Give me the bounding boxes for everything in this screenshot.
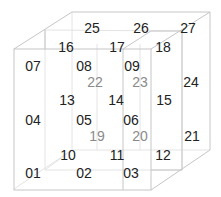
cell-label-11: 11: [110, 148, 125, 162]
cell-label-04: 04: [25, 113, 41, 127]
cell-label-16: 16: [58, 40, 74, 54]
cell-label-23: 23: [132, 75, 148, 89]
cell-label-27: 27: [180, 21, 196, 35]
cell-label-21: 21: [184, 129, 200, 143]
cell-label-13: 13: [59, 93, 75, 107]
cell-label-10: 10: [60, 148, 76, 162]
cell-label-14: 14: [108, 93, 124, 107]
cube-diagram: 2526271617180708092223241314150405061920…: [0, 0, 221, 197]
cell-label-24: 24: [183, 75, 199, 89]
cell-label-25: 25: [84, 21, 100, 35]
cell-label-02: 02: [76, 166, 92, 180]
cell-label-09: 09: [124, 59, 140, 73]
cell-label-20: 20: [132, 129, 148, 143]
cell-label-03: 03: [123, 166, 139, 180]
cell-label-19: 19: [89, 129, 105, 143]
cell-label-12: 12: [155, 148, 171, 162]
cell-label-06: 06: [123, 113, 139, 127]
cell-label-26: 26: [133, 21, 149, 35]
cell-label-05: 05: [76, 113, 92, 127]
cell-label-18: 18: [155, 40, 171, 54]
cell-label-15: 15: [156, 93, 172, 107]
cell-label-22: 22: [87, 75, 103, 89]
cell-label-08: 08: [76, 59, 92, 73]
cell-label-17: 17: [109, 40, 125, 54]
cell-label-07: 07: [25, 59, 41, 73]
cell-label-01: 01: [25, 166, 41, 180]
